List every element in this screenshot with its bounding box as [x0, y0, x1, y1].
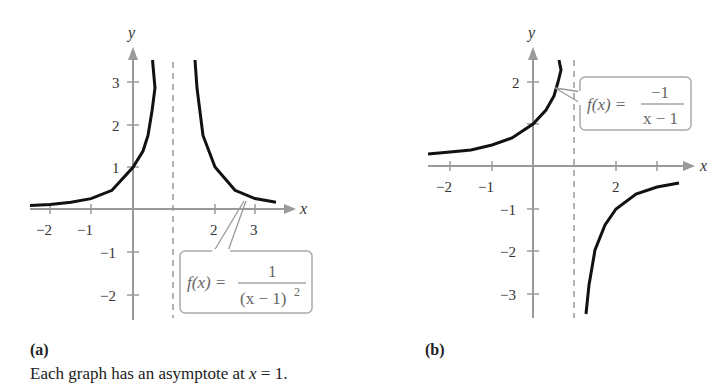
graph-b-x-arrow-icon — [683, 161, 695, 171]
graph-b-callout-lhs: f(x) = — [587, 95, 626, 114]
figure-canvas: x y −2 −1 2 3 3 2 1 −1 −2 — [0, 0, 721, 390]
graph-a-y-axis-name: y — [126, 24, 136, 42]
graph-b-right-branch — [586, 183, 679, 314]
graph-a-y-tick-label: 3 — [112, 75, 120, 91]
panel-label-b: (b) — [425, 341, 445, 359]
graph-a: x y −2 −1 2 3 3 2 1 −1 −2 — [30, 24, 312, 320]
figure-caption: Each graph has an asymptote at x = 1. — [30, 364, 287, 384]
graph-b-y-tick-label: −3 — [500, 287, 516, 303]
graph-a-x-tick-label: −2 — [36, 222, 52, 238]
graph-a-x-tick-label: 2 — [210, 222, 218, 238]
graph-a-x-tick-label: 3 — [250, 222, 258, 238]
graph-a-right-branch — [195, 60, 276, 202]
graph-a-y-tick-label: 1 — [112, 160, 120, 176]
graph-b-y-tick-label: −2 — [500, 244, 516, 260]
graph-b-x-tick-label: −1 — [478, 179, 494, 195]
graph-a-x-tick-label: −1 — [77, 222, 93, 238]
graph-b-y-arrow-icon — [528, 47, 538, 60]
caption-prefix: Each graph has an asymptote at — [30, 364, 249, 383]
graph-a-x-axis-name: x — [299, 200, 307, 217]
graph-a-y-arrow-icon — [128, 47, 138, 60]
graph-a-callout-exponent: 2 — [294, 285, 300, 299]
caption-variable: x — [249, 364, 257, 383]
graph-a-y-tick-label: 2 — [112, 118, 120, 134]
graph-b-x-axis-name: x — [699, 157, 707, 174]
graph-b-callout-numerator: −1 — [651, 83, 669, 102]
caption-suffix: = 1. — [257, 364, 288, 383]
graph-b-y-tick-label: 2 — [512, 75, 520, 91]
graph-a-x-arrow-icon — [284, 204, 296, 214]
graph-b-callout-denominator: x − 1 — [643, 109, 678, 128]
graph-b-x-tick-label: −2 — [436, 179, 452, 195]
graph-b-x-tick-label: 2 — [612, 179, 620, 195]
graph-a-y-tick-label: −2 — [100, 288, 116, 304]
panel-label-a: (a) — [30, 341, 49, 359]
graph-a-callout-lhs: f(x) = — [187, 273, 226, 292]
graph-b-y-axis-name: y — [526, 24, 536, 42]
graph-a-y-tick-label: −1 — [100, 245, 116, 261]
graph-a-callout: f(x) = 1 (x − 1) 2 — [180, 201, 312, 313]
graph-b: x y −2 −1 2 2 −1 −2 −3 — [428, 24, 707, 318]
graph-b-y-tick-label: −1 — [500, 202, 516, 218]
graph-b-callout: f(x) = −1 x − 1 — [555, 77, 691, 130]
graph-a-callout-numerator: 1 — [268, 262, 277, 281]
graph-a-callout-denominator: (x − 1) — [240, 289, 286, 308]
graph-b-left-branch — [428, 60, 561, 154]
